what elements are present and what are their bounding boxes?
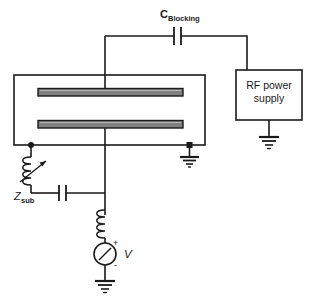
zsub-capacitor	[59, 185, 66, 201]
blocking-capacitor-label-sub: Blocking	[168, 14, 200, 23]
voltage-source-minus-sign: -	[114, 260, 117, 270]
source-ground-icon	[95, 281, 115, 293]
voltage-source-plus-sign: +	[113, 238, 118, 248]
wire-top-right-segment	[181, 36, 247, 70]
rf-supply-ground-icon	[259, 137, 279, 149]
rf-power-supply-label-line1: RF power	[246, 79, 292, 91]
rf-power-supply-label-line2: supply	[254, 92, 285, 104]
bias-inductor	[97, 210, 105, 243]
blocking-capacitor	[174, 27, 181, 45]
voltage-source-label: V	[124, 248, 133, 260]
chamber-right-node	[187, 142, 193, 148]
z-sub-label-sub: sub	[21, 196, 35, 205]
upper-electrode	[38, 89, 183, 97]
circuit-diagram: C Blocking RF power supply	[0, 0, 309, 300]
blocking-capacitor-label-main: C	[160, 8, 168, 20]
chamber-ground-icon	[180, 157, 199, 167]
lower-electrode	[38, 121, 183, 129]
variable-inductor	[20, 157, 46, 193]
plasma-chamber	[14, 75, 205, 145]
circuit-diagram-svg: C Blocking RF power supply	[0, 0, 309, 300]
